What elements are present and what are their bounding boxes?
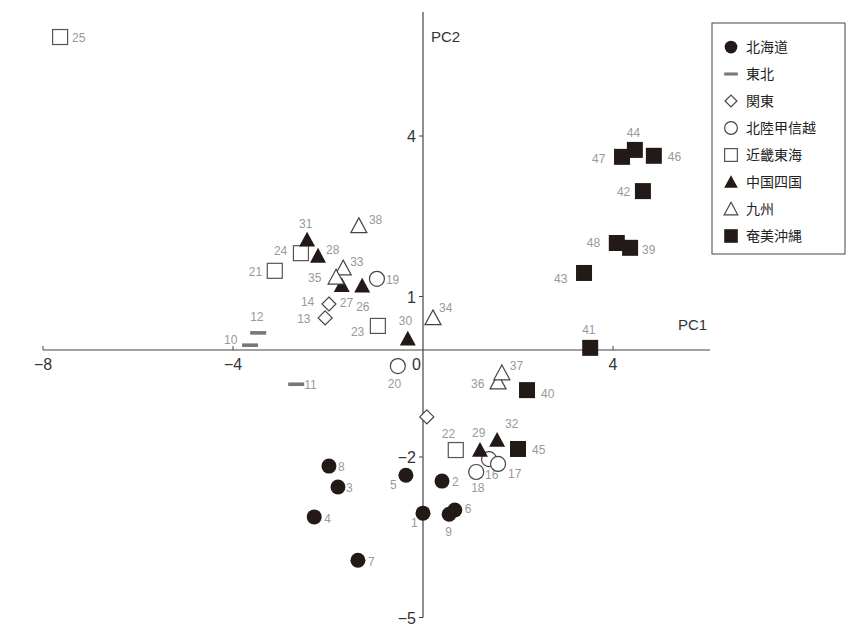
point-label: 12 [250,310,264,324]
open-circle-marker [725,122,738,135]
data-points: 1234567891011121314161718192021222324252… [53,30,682,570]
point-label: 45 [532,443,546,457]
open-square-marker [267,263,282,278]
origin-label: 0 [412,356,421,373]
filled-square-marker [635,183,651,199]
dash-marker [724,72,738,75]
point-label: 46 [668,150,682,164]
point-label: 26 [356,300,370,314]
open-square-marker [370,318,385,333]
point-label: 29 [472,426,486,440]
open-square-marker [293,246,308,261]
point-label: 25 [72,31,86,45]
point-label: 44 [627,126,641,140]
filled-square-marker [576,265,592,281]
filled-circle-marker [321,459,336,474]
dash-marker [242,343,258,347]
legend-entry-label: 中国四国 [746,174,802,190]
point-label: 11 [304,378,317,392]
point-label: 5 [390,478,397,492]
point-label: 40 [541,387,555,401]
filled-triangle-marker [299,232,315,247]
point-label: 10 [224,333,238,347]
open-diamond-marker [420,410,434,424]
dash-marker [288,382,304,386]
point-label: 19 [386,273,400,287]
point-label: 39 [642,243,656,257]
filled-square-marker [724,229,738,243]
filled-square-marker [510,441,526,457]
pca-scatter-chart: −8−4441−2−50PC1PC2 123456789101112131416… [0,0,854,631]
open-circle-marker [469,464,484,479]
point-label: 37 [510,359,524,373]
series-open-square: 2122232425 [53,30,464,458]
point-label: 3 [346,481,353,495]
point-label: 34 [439,301,453,315]
point-label: 14 [301,295,315,309]
filled-circle-marker [725,41,738,54]
point-label: 2 [452,475,459,489]
point-label: 48 [587,236,601,250]
legend-entry-label: 奄美沖縄 [746,228,802,244]
series-filled-square: 39404142434445464748 [510,126,682,457]
filled-circle-marker [416,506,431,521]
filled-square-marker [582,340,598,356]
point-label: 4 [324,512,331,526]
point-label: 32 [505,417,519,431]
open-square-marker [725,149,738,162]
dash-marker [250,331,266,335]
legend-entry-label: 九州 [746,201,774,217]
point-label: 7 [368,555,375,569]
point-label: 47 [592,152,606,166]
point-label: 8 [338,460,345,474]
x-tick-label: −4 [224,356,242,373]
filled-circle-marker [398,468,413,483]
point-label: 1 [411,516,418,530]
point-label: 30 [399,314,413,328]
filled-circle-marker [330,479,345,494]
y-tick-label: −5 [398,610,416,627]
filled-square-marker [646,148,662,164]
filled-square-marker [614,149,630,165]
point-label: 31 [299,217,313,231]
filled-triangle-marker [310,248,326,263]
open-triangle-marker [494,365,510,380]
point-label: 35 [308,271,322,285]
point-label: 9 [445,525,452,539]
x-tick-label: 4 [609,356,618,373]
point-label: 24 [274,244,288,258]
y-tick-label: 4 [407,128,416,145]
point-label: 6 [465,502,472,516]
x-tick-label: −8 [34,356,52,373]
open-diamond-marker [322,297,336,311]
point-label: 43 [554,272,568,286]
filled-circle-marker [307,509,322,524]
filled-triangle-marker [354,278,370,293]
point-label: 22 [442,427,456,441]
filled-square-marker [519,382,535,398]
y-tick-label: −2 [398,449,416,466]
legend: 北海道東北関東北陸甲信越近畿東海中国四国九州奄美沖縄 [712,23,845,254]
open-triangle-marker [351,218,367,233]
filled-circle-marker [442,507,457,522]
point-label: 20 [388,377,402,391]
point-label: 33 [350,255,364,269]
open-square-marker [448,443,463,458]
point-label: 23 [351,325,365,339]
point-label: 28 [326,243,340,257]
point-label: 13 [297,312,311,326]
point-label: 18 [471,481,485,495]
point-label: 42 [617,185,631,199]
series-filled-circle: 123456789 [307,459,472,570]
x-axis-title: PC1 [678,316,707,333]
open-circle-marker [369,271,384,286]
point-label: 36 [471,377,485,391]
legend-box [712,23,845,254]
filled-triangle-marker [400,331,416,346]
point-label: 38 [369,213,383,227]
legend-entry-label: 近畿東海 [746,147,802,163]
point-label: 27 [340,296,354,310]
filled-triangle-marker [472,442,488,457]
legend-entry-label: 北海道 [746,39,788,55]
legend-entry-label: 東北 [746,66,774,82]
